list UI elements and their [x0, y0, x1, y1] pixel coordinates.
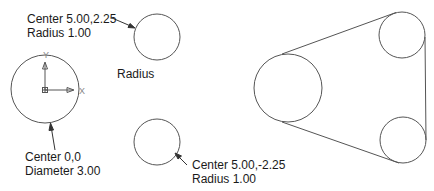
top-circle-center-text: Center 5.00,2.25 — [27, 12, 116, 26]
ucs-axis-icon — [43, 62, 75, 93]
bottom-circle-radius-text: Radius 1.00 — [192, 172, 285, 186]
leader-bottom-circle — [175, 153, 187, 165]
belt-top-pulley — [379, 12, 425, 58]
bottom-circle-label: Center 5.00,-2.25 Radius 1.00 — [192, 158, 285, 186]
origin-circle-label: Center 0,0 Diameter 3.00 — [25, 150, 100, 178]
axis-x-label: X — [79, 84, 85, 98]
leader-origin-circle — [49, 123, 55, 150]
origin-diameter-text: Diameter 3.00 — [25, 164, 100, 178]
belt-bottom-tangent — [282, 122, 399, 163]
belt-large-pulley — [254, 54, 322, 122]
top-circle-radius-text: Radius 1.00 — [27, 26, 116, 40]
axis-y-label: Y — [43, 48, 49, 62]
radius-caption: Radius — [117, 67, 154, 81]
belt-bottom-pulley — [380, 117, 426, 163]
bottom-circle-center-text: Center 5.00,-2.25 — [192, 158, 285, 172]
origin-center-text: Center 0,0 — [25, 150, 100, 164]
cad-drawing: Center 5.00,2.25 Radius 1.00 Radius Y X … — [0, 0, 434, 191]
belt-right-tangent — [425, 37, 426, 140]
bottom-circle — [134, 119, 180, 165]
top-circle — [134, 14, 180, 60]
top-circle-label: Center 5.00,2.25 Radius 1.00 — [27, 12, 116, 40]
